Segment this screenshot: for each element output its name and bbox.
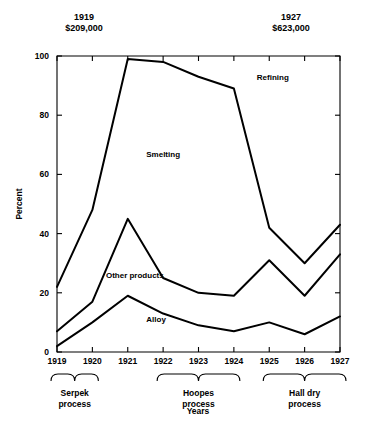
annotation-smelting: Smelting bbox=[146, 150, 180, 159]
x-tick-label: 1923 bbox=[189, 356, 208, 366]
y-tick-label: 60 bbox=[40, 169, 50, 179]
group-brace bbox=[51, 374, 98, 381]
x-axis-group-braces: SerpekprocessHoopesprocessHall dryproces… bbox=[51, 374, 346, 409]
x-tick-label: 1925 bbox=[260, 356, 279, 366]
series-line-alloy bbox=[57, 296, 340, 346]
x-tick-label: 1926 bbox=[295, 356, 314, 366]
series-lines bbox=[57, 59, 340, 346]
x-tick-label: 1921 bbox=[118, 356, 137, 366]
group-brace bbox=[263, 374, 346, 381]
y-tick-label: 20 bbox=[40, 288, 50, 298]
series-line-other-products bbox=[57, 219, 340, 331]
y-tick-label: 80 bbox=[40, 110, 50, 120]
group-label: process bbox=[288, 399, 321, 409]
group-label: Hall dry bbox=[289, 388, 320, 398]
axes bbox=[57, 56, 340, 352]
x-axis-title: Years bbox=[187, 406, 210, 416]
group-label: process bbox=[58, 399, 91, 409]
annotation-alloy: Alloy bbox=[146, 315, 166, 324]
series-line-smelting bbox=[57, 59, 340, 287]
line-chart-figure: 1919 $209,000 1927 $623,000 020406080100… bbox=[0, 0, 367, 431]
group-brace bbox=[157, 374, 240, 381]
y-tick-label: 100 bbox=[35, 51, 49, 61]
x-tick-label: 1920 bbox=[83, 356, 102, 366]
group-label: Hoopes bbox=[183, 388, 214, 398]
x-tick-label: 1919 bbox=[48, 356, 67, 366]
group-label: Serpek bbox=[61, 388, 90, 398]
x-tick-label: 1924 bbox=[224, 356, 243, 366]
plot-frame bbox=[57, 56, 340, 352]
annotation-other-products: Other products bbox=[106, 271, 164, 280]
annotation-refining: Refining bbox=[257, 73, 289, 82]
x-tick-label: 1927 bbox=[331, 356, 350, 366]
plot-area: 020406080100 191919201921192219231924192… bbox=[0, 0, 367, 431]
x-tick-label: 1922 bbox=[154, 356, 173, 366]
y-axis-title: Percent bbox=[14, 188, 24, 219]
y-tick-label: 40 bbox=[40, 229, 50, 239]
